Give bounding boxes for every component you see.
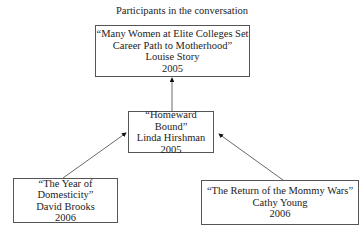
node-brooks: “The Year of Domesticity” David Brooks 2… — [13, 178, 118, 223]
node-young: “The Return of the Mommy Wars” Cathy You… — [201, 180, 359, 225]
node-hirshman: “Homeward Bound” Linda Hirshman 2005 — [128, 111, 214, 153]
node-year: 2006 — [14, 212, 117, 224]
node-year: 2005 — [96, 63, 249, 75]
node-story: “Many Women at Elite Colleges Set Career… — [95, 25, 250, 77]
node-author: Cathy Young — [202, 197, 358, 209]
node-title: “Homeward Bound” — [129, 109, 213, 132]
node-title: “The Year of Domesticity” — [14, 178, 117, 201]
node-author: Louise Story — [96, 51, 249, 63]
node-author: David Brooks — [14, 201, 117, 213]
arrow-young-to-hirshman — [219, 134, 283, 180]
node-author: Linda Hirshman — [129, 132, 213, 144]
node-title: “The Return of the Mommy Wars” — [202, 185, 358, 197]
arrow-brooks-to-hirshman — [63, 133, 126, 178]
node-title: Career Path to Motherhood” — [96, 40, 249, 52]
node-title: “Many Women at Elite Colleges Set — [96, 28, 249, 40]
node-year: 2006 — [202, 208, 358, 220]
node-year: 2005 — [129, 144, 213, 156]
